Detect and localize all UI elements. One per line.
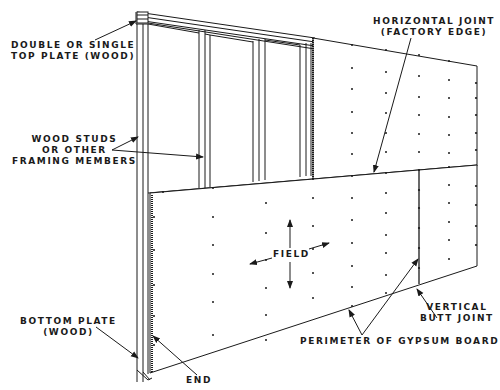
studs-label-line3: FRAMING MEMBERS	[12, 156, 137, 167]
field-label: FIELD	[273, 249, 310, 260]
label-top-plate: DOUBLE OR SINGLE TOP PLATE (WOOD)	[11, 40, 135, 62]
label-studs: WOOD STUDS OR OTHER FRAMING MEMBERS	[12, 134, 137, 167]
top-plate-leader	[95, 21, 136, 40]
studs-label-line1: WOOD STUDS	[12, 134, 137, 145]
corner-stud	[137, 24, 148, 382]
stud-2	[210, 35, 300, 182]
perimeter-label: PERIMETER OF GYPSUM BOARD	[300, 336, 499, 347]
bottom-plate-label-line2: (WOOD)	[20, 327, 117, 338]
horizontal-joint-label-line1: HORIZONTAL JOINT	[373, 16, 495, 27]
top-plate-label-line1: DOUBLE OR SINGLE	[11, 40, 135, 51]
stud-3	[300, 43, 311, 177]
gypsum-wall-diagram: DOUBLE OR SINGLE TOP PLATE (WOOD) WOOD S…	[0, 0, 500, 390]
butt-joint-label-line1: VERTICAL	[420, 302, 494, 313]
studs-label-line2: OR OTHER	[12, 145, 137, 156]
label-vertical-butt-joint: VERTICAL BUTT JOINT	[420, 302, 494, 324]
butt-joint-label-line2: BUTT JOINT	[420, 313, 494, 324]
label-end: END	[186, 375, 212, 386]
label-bottom-plate: BOTTOM PLATE (WOOD)	[20, 316, 117, 338]
horizontal-joint-label-line2: (FACTORY EDGE)	[373, 27, 495, 38]
label-horizontal-joint: HORIZONTAL JOINT (FACTORY EDGE)	[373, 16, 495, 38]
stud-1	[148, 24, 210, 188]
label-perimeter: PERIMETER OF GYPSUM BOARD	[300, 336, 499, 347]
bottom-plate-label-line1: BOTTOM PLATE	[20, 316, 117, 327]
end-label: END	[186, 375, 212, 386]
top-plate-label-line2: TOP PLATE (WOOD)	[11, 51, 135, 62]
upper-gypsum-board	[313, 38, 477, 186]
perimeter-leader-2	[349, 310, 362, 335]
label-field: FIELD	[273, 249, 310, 260]
